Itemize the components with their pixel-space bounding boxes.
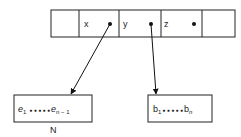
cell-label-z: z — [164, 19, 169, 29]
cell-label-x: x — [84, 19, 89, 29]
left-box-caption: N — [50, 125, 57, 135]
left-last-sub: n − 1 — [56, 109, 70, 115]
arrow-y-to-right-box — [151, 24, 156, 94]
left-box: e1● ● ● ● ●en − 1 N — [14, 95, 92, 135]
arrow-x-to-left-box — [71, 24, 110, 94]
left-first-sub: 1 — [23, 109, 27, 115]
cell-label-y: y — [123, 19, 128, 29]
pointer-dot-z — [192, 22, 196, 26]
left-box-content: e1● ● ● ● ●en − 1 — [18, 104, 70, 115]
diagram: x y z e1● ● ● ● ●en − 1 N b1● ● ● ● ●bn — [0, 0, 241, 137]
right-box-content: b1● ● ● ● ●bn — [153, 104, 193, 115]
right-last-sub: n — [189, 109, 193, 115]
record-bar: x y z — [51, 10, 235, 37]
right-box: b1● ● ● ● ●bn — [148, 95, 212, 122]
left-dots: ● ● ● ● ● — [29, 107, 50, 113]
right-dots: ● ● ● ● ● — [162, 107, 183, 113]
